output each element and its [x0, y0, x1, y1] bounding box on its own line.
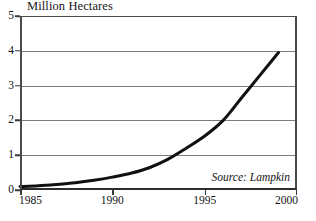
y-tick-label: 3 [8, 80, 14, 92]
source-annotation: Source: Lampkin [212, 171, 290, 183]
y-tick-label: 2 [8, 115, 14, 127]
plot-area: Source: Lampkin [20, 16, 297, 190]
x-tick-label: 1995 [193, 195, 216, 207]
series-line-organic-land-area [20, 16, 297, 190]
x-tick-label: 1985 [19, 195, 42, 207]
x-tick-label: 1990 [101, 195, 124, 207]
chart-figure: Million Hectares 012345 Source: Lampkin … [0, 0, 316, 221]
chart-title: Million Hectares [27, 0, 113, 14]
x-axis: 1985199019952000 [20, 190, 297, 216]
y-tick-label: 1 [8, 149, 14, 161]
y-tick-label: 4 [8, 45, 14, 57]
y-axis: 012345 [0, 16, 20, 190]
y-tick-label: 5 [8, 10, 14, 22]
x-tick-label: 2000 [275, 195, 298, 207]
y-tick-label: 0 [8, 184, 14, 196]
